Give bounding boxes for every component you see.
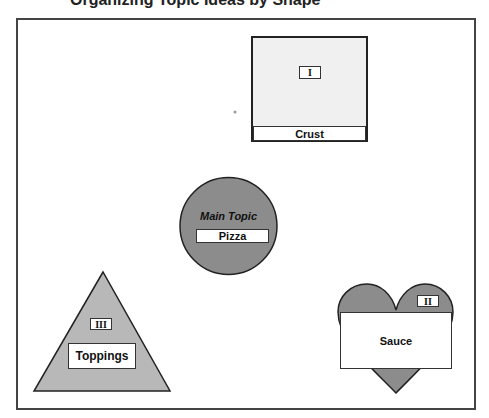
stray-dot bbox=[234, 111, 237, 114]
crust-label: Crust bbox=[253, 126, 366, 141]
numeral-badge-i: I bbox=[299, 66, 321, 79]
sauce-label: Sauce bbox=[340, 312, 452, 369]
circle-shape bbox=[180, 178, 277, 275]
toppings-label: Toppings bbox=[68, 343, 136, 369]
main-topic-caption: Main Topic bbox=[180, 210, 277, 222]
numeral-badge-iii: III bbox=[90, 318, 112, 330]
pizza-label: Pizza bbox=[196, 229, 269, 243]
numeral-badge-ii: II bbox=[417, 295, 439, 307]
triangle-shape bbox=[34, 272, 170, 391]
